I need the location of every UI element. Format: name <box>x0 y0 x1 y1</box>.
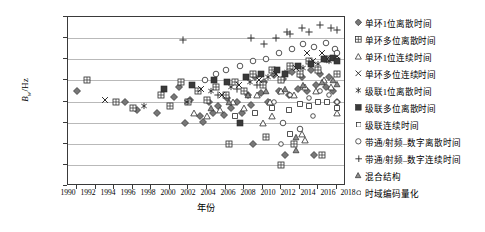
data-point <box>237 119 244 126</box>
x-axis-tick-label: 2014 <box>298 188 318 197</box>
legend-item[interactable]: 单环多位离散时间 <box>352 31 485 48</box>
data-point <box>260 40 268 48</box>
legend-label: 级联连续时间 <box>365 119 418 131</box>
legend-item[interactable]: 混合结构 <box>352 167 485 184</box>
data-point <box>250 140 257 147</box>
legend-item[interactable]: 单环1位离散时间 <box>352 14 485 31</box>
data-point <box>237 62 244 69</box>
data-point <box>178 79 185 86</box>
data-point <box>253 81 261 89</box>
data-point <box>311 43 318 50</box>
data-point <box>289 46 296 53</box>
data-point <box>222 67 229 74</box>
x-axis-tick-label: 2002 <box>178 188 198 197</box>
data-point <box>247 34 255 42</box>
data-point <box>316 21 324 29</box>
legend-label: 混合结构 <box>365 170 401 182</box>
data-point <box>307 60 314 67</box>
data-point <box>305 28 313 36</box>
x-axis-ticklabels: 1990199219941996199820002002200420062008… <box>58 188 358 197</box>
data-point <box>306 103 312 109</box>
data-point <box>306 95 312 101</box>
x-axis-tick-label: 2008 <box>238 188 258 197</box>
legend-item[interactable]: 级联多位离散时间 <box>352 99 485 116</box>
y-axis-title: Bw/Hz <box>20 60 32 120</box>
legend-label: 带通/射频–数字连续时间 <box>365 153 461 165</box>
x-axis-tick-label: 1994 <box>98 188 118 197</box>
data-point <box>157 92 164 99</box>
data-point <box>282 86 289 93</box>
data-point <box>294 62 301 69</box>
data-point <box>304 49 311 56</box>
data-point <box>263 56 270 63</box>
data-point <box>268 113 275 120</box>
gridline <box>68 165 344 166</box>
data-point <box>228 104 235 111</box>
data-point <box>315 99 321 105</box>
data-point <box>333 26 341 34</box>
legend-item[interactable]: 级联连续时间 <box>352 116 485 133</box>
data-point <box>153 109 160 116</box>
data-point <box>226 98 233 105</box>
legend-label: 级联1位离散时间 <box>365 85 432 97</box>
legend-item[interactable]: 带通/射频–数字连续时间 <box>352 150 485 167</box>
data-point <box>265 73 272 80</box>
data-point <box>310 113 316 119</box>
legend-marker-icon <box>352 104 365 111</box>
legend-item[interactable]: 带通/射频–数字离散时间 <box>352 133 485 150</box>
gridline <box>68 38 344 39</box>
data-point <box>216 106 223 113</box>
data-point <box>179 36 187 44</box>
chart-legend: 单环1位离散时间单环多位离散时间单环1位连续时间单环多位连续时间级联1位离散时间… <box>352 14 485 201</box>
data-point <box>214 91 222 99</box>
legend-item[interactable]: 单环多位连续时间 <box>352 65 485 82</box>
y-axis-tickmark <box>63 185 67 186</box>
legend-marker-icon <box>352 87 365 94</box>
data-point <box>204 96 211 103</box>
legend-item[interactable]: 级联1位离散时间 <box>352 82 485 99</box>
data-point <box>286 30 294 38</box>
data-point <box>83 77 90 84</box>
legend-item[interactable]: 时域编码量化 <box>352 184 485 201</box>
data-point <box>232 113 238 119</box>
data-point <box>122 98 129 105</box>
data-point <box>207 105 214 112</box>
legend-marker-icon <box>352 70 365 77</box>
data-point <box>248 101 255 108</box>
legend-item[interactable]: 单环1位连续时间 <box>352 48 485 65</box>
x-axis-title: 年份 <box>67 200 345 214</box>
data-point <box>233 85 241 93</box>
x-axis-tick-label: 1996 <box>118 188 138 197</box>
data-point <box>333 80 340 87</box>
data-point <box>293 134 300 141</box>
data-point <box>183 98 190 105</box>
data-point <box>279 119 286 126</box>
data-point <box>296 125 303 132</box>
data-point <box>281 151 288 158</box>
data-point <box>296 71 303 78</box>
x-axis-tick-label: 2006 <box>218 188 238 197</box>
data-point <box>113 98 120 105</box>
data-point <box>300 41 307 48</box>
data-point <box>102 96 109 103</box>
data-point <box>272 34 280 42</box>
data-point <box>300 82 307 89</box>
data-point <box>318 151 325 158</box>
data-point <box>274 67 281 74</box>
data-point <box>334 105 340 111</box>
data-point <box>245 92 252 99</box>
legend-label: 带通/射频–数字离散时间 <box>365 136 461 148</box>
data-point <box>204 113 211 120</box>
x-axis-tick-label: 2000 <box>158 188 178 197</box>
data-point <box>257 71 264 78</box>
data-point <box>213 71 220 78</box>
legend-label: 单环1位连续时间 <box>365 51 432 63</box>
plot-area <box>67 16 345 185</box>
data-point <box>302 137 309 144</box>
data-point <box>334 99 340 105</box>
data-point <box>276 49 283 56</box>
data-point <box>129 104 136 111</box>
chart-figure: Bw/Hz 1×1011×1021×1031×1041×1051×1061×10… <box>0 0 485 232</box>
data-point <box>198 85 205 92</box>
legend-label: 单环多位连续时间 <box>365 68 436 80</box>
